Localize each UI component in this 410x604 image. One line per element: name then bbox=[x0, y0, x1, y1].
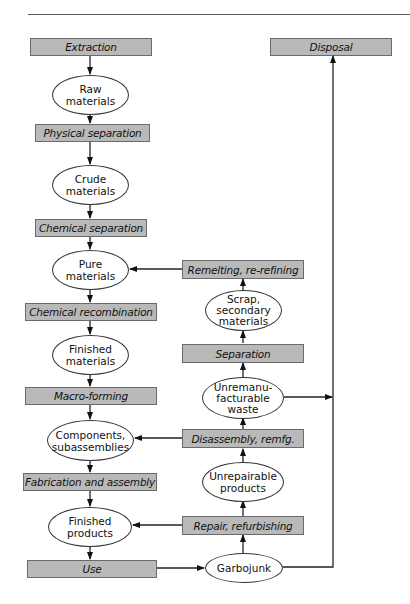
state-unremanufacturable: Unremanu-facturablewaste bbox=[202, 377, 284, 419]
state-components: Components,subassemblies bbox=[47, 420, 134, 461]
label-line: materials bbox=[216, 316, 270, 327]
process-separation: Separation bbox=[182, 344, 304, 363]
label-line: Unrepairable bbox=[209, 470, 277, 482]
state-finished-products: Finishedproducts bbox=[48, 507, 132, 547]
process-use: Use bbox=[27, 560, 157, 578]
label-line: facturable bbox=[214, 393, 273, 404]
process-physical-separation: Physical separation bbox=[35, 124, 150, 142]
process-disassembly: Disassembly, remfg. bbox=[182, 429, 304, 448]
label-line: materials bbox=[66, 95, 115, 107]
state-raw-materials: Rawmaterials bbox=[52, 75, 129, 115]
label-line: Crude bbox=[66, 173, 115, 185]
label-line: subassemblies bbox=[52, 441, 129, 453]
state-crude-materials: Crudematerials bbox=[52, 165, 129, 205]
state-finished-materials: Finishedmaterials bbox=[52, 335, 129, 375]
label-line: Finished bbox=[67, 515, 113, 527]
label-line: Pure bbox=[66, 258, 115, 270]
process-extraction: Extraction bbox=[30, 38, 152, 56]
label-line: Raw bbox=[66, 83, 115, 95]
process-chemical-separation: Chemical separation bbox=[35, 219, 147, 237]
label-line: Finished bbox=[66, 343, 115, 355]
label-line: materials bbox=[66, 355, 115, 367]
state-pure-materials: Purematerials bbox=[52, 250, 129, 290]
label-line: products bbox=[209, 482, 277, 494]
state-scrap: Scrap,secondarymaterials bbox=[205, 290, 282, 331]
label-line: Unremanu- bbox=[214, 382, 273, 393]
process-macro-forming: Macro-forming bbox=[25, 387, 157, 405]
label-line: materials bbox=[66, 270, 115, 282]
process-repair: Repair, refurbishing bbox=[182, 516, 304, 535]
state-unrepairable: Unrepairableproducts bbox=[202, 462, 284, 502]
process-remelting: Remelting, re-refining bbox=[182, 260, 304, 279]
label-line: Components, bbox=[52, 429, 129, 441]
label-line: Garbojunk bbox=[217, 562, 271, 574]
label-line: waste bbox=[214, 404, 273, 415]
label-line: products bbox=[67, 527, 113, 539]
process-disposal: Disposal bbox=[270, 38, 392, 56]
label-line: materials bbox=[66, 185, 115, 197]
state-garbojunk: Garbojunk bbox=[205, 553, 283, 583]
process-fabrication-assembly: Fabrication and assembly bbox=[23, 473, 157, 491]
process-chemical-recombination: Chemical recombination bbox=[25, 303, 157, 321]
